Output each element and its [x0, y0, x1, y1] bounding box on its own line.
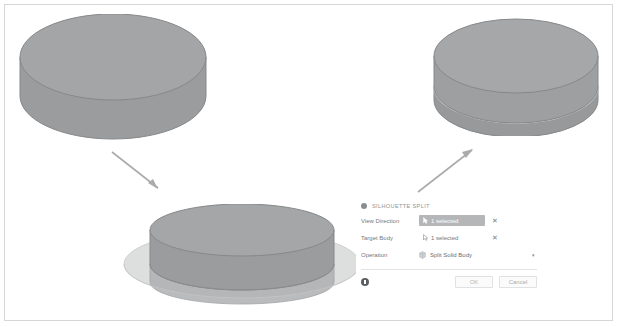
silhouette-split-dialog: SILHOUETTE SPLIT View Direction 1 select…	[356, 199, 542, 294]
solid-body-icon	[419, 251, 426, 259]
cancel-button[interactable]: Cancel	[499, 276, 537, 288]
dialog-title: SILHOUETTE SPLIT	[372, 203, 430, 209]
row-operation: Operation Split Solid Body ▾	[356, 246, 542, 263]
cursor-select-icon	[423, 234, 428, 241]
viewport-before	[18, 14, 208, 144]
split-cylinder-after	[432, 18, 600, 136]
viewport-after	[432, 18, 600, 136]
row-view-direction: View Direction 1 selected ✕	[356, 212, 542, 229]
arrow-down-right	[108, 148, 208, 198]
cylinder-with-silhouette-plane	[122, 204, 362, 322]
arrow-up-right	[410, 142, 510, 197]
target-body-label: Target Body	[361, 235, 419, 241]
screenshot-root: SILHOUETTE SPLIT View Direction 1 select…	[0, 0, 619, 327]
operation-value: Split Solid Body	[430, 252, 472, 258]
view-direction-clear-icon[interactable]: ✕	[492, 217, 498, 224]
row-target-body: Target Body 1 selected ✕	[356, 229, 542, 246]
solid-cylinder-before	[18, 14, 208, 144]
target-body-value: 1 selected	[431, 235, 458, 241]
operation-label: Operation	[361, 252, 419, 258]
view-direction-value: 1 selected	[431, 218, 458, 224]
operation-dropdown[interactable]: Split Solid Body ▾	[419, 251, 537, 259]
target-body-clear-icon[interactable]: ✕	[492, 234, 498, 241]
view-direction-field[interactable]: 1 selected	[419, 215, 485, 226]
target-body-field[interactable]: 1 selected	[419, 232, 485, 243]
view-direction-label: View Direction	[361, 218, 419, 224]
dialog-footer: OK Cancel	[356, 270, 542, 294]
silhouette-split-icon	[361, 203, 367, 209]
info-icon[interactable]	[361, 278, 369, 286]
ok-button[interactable]: OK	[455, 276, 493, 288]
cursor-arrow-icon	[423, 217, 428, 224]
dialog-header: SILHOUETTE SPLIT	[356, 199, 542, 212]
chevron-down-icon[interactable]: ▾	[532, 252, 535, 258]
viewport-preview	[122, 204, 362, 322]
